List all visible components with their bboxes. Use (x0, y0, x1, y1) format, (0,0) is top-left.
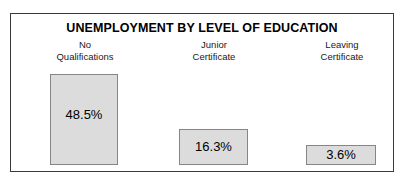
category-label-line-1: No (29, 39, 141, 51)
bar-leaving-certificate: 3.6% (306, 145, 376, 165)
category-label-leaving-certificate: Leaving Certificate (286, 39, 398, 62)
bar-junior-certificate: 16.3% (179, 129, 248, 165)
category-label-line-2: Certificate (158, 51, 270, 63)
chart-frame: UNEMPLOYMENT BY LEVEL OF EDUCATION No Qu… (10, 13, 394, 172)
category-label-junior-certificate: Junior Certificate (158, 39, 270, 62)
bar-column-no-qualifications: No Qualifications 48.5% (29, 39, 141, 165)
category-label-line-1: Junior (158, 39, 270, 51)
bar-value-leaving-certificate: 3.6% (307, 147, 375, 162)
chart-title: UNEMPLOYMENT BY LEVEL OF EDUCATION (11, 21, 393, 35)
category-label-no-qualifications: No Qualifications (29, 39, 141, 62)
bar-value-junior-certificate: 16.3% (180, 139, 247, 154)
bar-value-no-qualifications: 48.5% (51, 107, 117, 122)
category-label-line-2: Qualifications (29, 51, 141, 63)
bar-column-junior-certificate: Junior Certificate 16.3% (158, 39, 270, 165)
bar-no-qualifications: 48.5% (50, 74, 118, 165)
category-label-line-2: Certificate (286, 51, 398, 63)
bar-column-leaving-certificate: Leaving Certificate 3.6% (286, 39, 398, 165)
category-label-line-1: Leaving (286, 39, 398, 51)
